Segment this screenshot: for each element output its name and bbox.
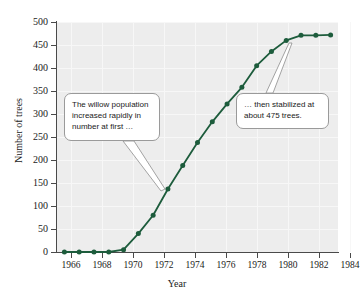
- annotation-growth-line-3: number at first …: [72, 121, 153, 132]
- leader-line-plateau: [266, 43, 292, 93]
- annotation-growth-line-1: The willow population: [72, 99, 153, 110]
- annotation-plateau-line-2: about 475 trees.: [244, 110, 322, 121]
- annotation-plateau-line-1: … then stabilized at: [244, 99, 322, 110]
- annotation-growth-line-2: increased rapidly in: [72, 110, 153, 121]
- annotation-plateau: … then stabilized at about 475 trees.: [236, 93, 329, 129]
- leader-line-growth: [123, 141, 165, 191]
- annotation-growth: The willow population increased rapidly …: [64, 93, 160, 141]
